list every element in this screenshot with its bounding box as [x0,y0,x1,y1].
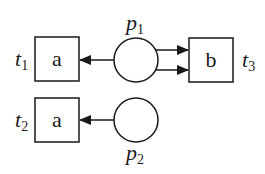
transition-name: t2 [15,107,28,134]
transition-t1: a t1 [15,37,79,81]
petri-net-diagram: a t1 p1 b t3 a t2 p2 [0,0,265,174]
place-name: p1 [124,10,144,37]
transition-name: t3 [242,47,255,74]
place-p1: p1 [114,10,158,82]
place-p2: p2 [114,98,158,167]
transition-t3: b t3 [189,38,255,82]
transition-label: b [206,47,217,72]
transition-name: t1 [15,46,28,73]
transition-label: a [52,107,62,132]
place-circle [114,38,158,82]
transition-t2: a t2 [15,98,79,142]
transition-label: a [52,46,62,71]
place-name: p2 [124,140,144,167]
place-circle [114,98,158,142]
